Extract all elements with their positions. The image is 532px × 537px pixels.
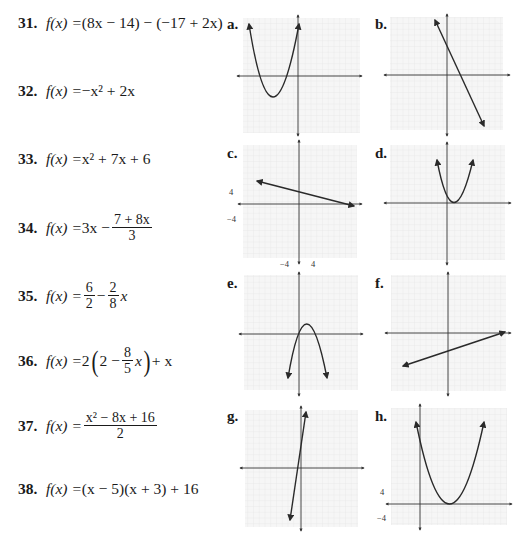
graph-c xyxy=(238,140,362,264)
graph-g xyxy=(240,406,364,531)
graph-f xyxy=(385,272,511,396)
graph-b xyxy=(384,14,510,136)
graphs-canvas xyxy=(0,0,532,537)
graph-d xyxy=(384,142,511,265)
graph-e xyxy=(239,272,363,396)
graph-h xyxy=(386,404,512,530)
graph-a xyxy=(237,15,362,136)
